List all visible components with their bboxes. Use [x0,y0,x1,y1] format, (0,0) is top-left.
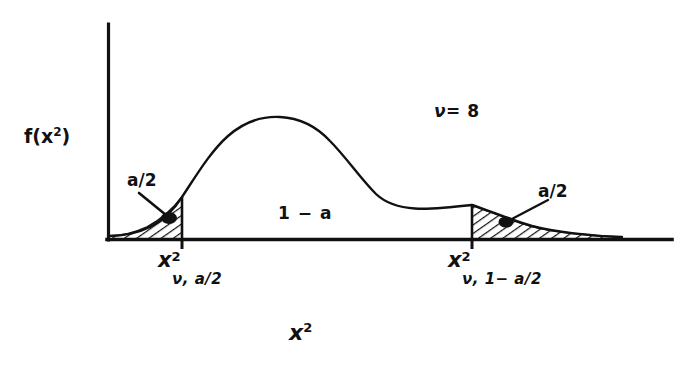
nu-symbol: ν [434,101,446,121]
right-critical-value-label: x2 ν, 1− a/2 [448,250,542,287]
density-curve [108,117,622,237]
left-crit-nu: ν [172,270,183,288]
df-value: = 8 [446,101,480,121]
y-axis-label-superscript: 2 [53,125,61,139]
right-tail-area-label: a/2 [538,183,568,200]
left-tail-area-label: a/2 [127,172,157,189]
right-crit-nu: ν [462,270,473,288]
right-crit-base: x [448,248,462,272]
y-axis-label: f(x2) [24,127,70,146]
right-crit-alpha: , 1− a/2 [473,270,542,288]
left-critical-value-label: x2 ν, a/2 [158,250,222,287]
left-crit-subscript: ν, a/2 [172,272,222,287]
right-crit-superscript: 2 [462,249,471,264]
degrees-of-freedom-label: ν= 8 [434,103,480,120]
y-axis-label-base: f(x [24,125,53,147]
left-crit-superscript: 2 [172,249,181,264]
x-axis-label-superscript: 2 [303,320,312,335]
y-axis-label-close: ) [62,125,71,147]
x-axis-label: x2 [289,322,312,344]
left-crit-alpha: , a/2 [183,270,222,288]
right-crit-subscript: ν, 1− a/2 [462,272,542,287]
chi-square-figure: f(x2) x2 ν= 8 1 − a a/2 a/2 x2 ν, a/2 x2… [0,0,691,373]
center-area-label: 1 − a [278,205,332,222]
chi-square-plot [0,0,691,373]
x-axis-label-base: x [289,320,303,345]
left-crit-base: x [158,248,172,272]
